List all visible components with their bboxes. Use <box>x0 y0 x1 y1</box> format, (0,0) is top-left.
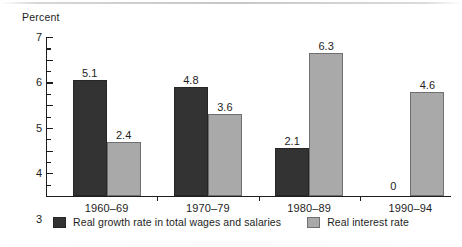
bar-value-label: 6.3 <box>318 41 333 52</box>
bar: 2.4 <box>107 142 141 197</box>
bar: 5.1 <box>73 80 107 196</box>
bar-value-label: 2.4 <box>116 130 131 141</box>
x-tick-label: 1970–79 <box>186 202 230 214</box>
y-tick-minor <box>47 139 51 140</box>
bar-value-label: 2.1 <box>284 136 299 147</box>
bar: 6.3 <box>309 53 343 196</box>
y-tick-major: 0 <box>47 196 53 197</box>
x-tick-label: 1960–69 <box>85 202 129 214</box>
bar-value-label: 4.6 <box>420 80 435 91</box>
bar-value-label: 3.6 <box>217 102 232 113</box>
y-tick-major: 6 <box>47 60 53 61</box>
y-tick-label: 4 <box>36 168 42 179</box>
y-tick-label: 7 <box>36 32 42 43</box>
legend-label-series-2: Real interest rate <box>327 216 409 228</box>
chart-legend: Real growth rate in total wages and sala… <box>0 216 462 228</box>
bar: 2.1 <box>275 148 309 196</box>
bar-value-label: 4.8 <box>183 75 198 86</box>
legend-item-series-1: Real growth rate in total wages and sala… <box>53 216 281 228</box>
y-tick-minor <box>47 185 51 186</box>
bar-value-label: 5.1 <box>82 68 97 79</box>
x-axis-line <box>46 196 451 197</box>
y-tick-label: 6 <box>36 77 42 88</box>
page-edge <box>0 241 462 247</box>
bar-chart-figure: Percent 01234567 5.12.44.83.62.16.304.6 … <box>0 0 462 247</box>
x-tick-separator <box>259 196 260 201</box>
x-tick-separator <box>157 196 158 201</box>
x-tick-label: 1990–94 <box>389 202 433 214</box>
y-tick-minor <box>47 117 51 118</box>
bar-value-label-zero: 0 <box>390 181 396 192</box>
bar: 4.6 <box>410 92 444 196</box>
y-tick-major: 7 <box>47 37 53 38</box>
y-tick-major: 1 <box>47 173 53 174</box>
y-tick-minor <box>47 71 51 72</box>
y-tick-minor <box>47 48 51 49</box>
scan-artifact-line <box>0 2 462 4</box>
y-tick-label: 5 <box>36 122 42 133</box>
x-tick-separator <box>360 196 361 201</box>
x-tick-label: 1980–89 <box>287 202 331 214</box>
legend-item-series-2: Real interest rate <box>307 216 409 228</box>
dark-swatch-icon <box>53 217 66 228</box>
y-tick-minor <box>47 162 51 163</box>
y-tick-major: 4 <box>47 105 53 106</box>
y-tick-minor <box>47 94 51 95</box>
y-tick-major: 3 <box>47 128 53 129</box>
legend-label-series-1: Real growth rate in total wages and sala… <box>73 216 281 228</box>
light-swatch-icon <box>307 217 320 228</box>
y-axis-title: Percent <box>22 11 60 23</box>
bar: 3.6 <box>208 114 242 196</box>
plot-area: 01234567 5.12.44.83.62.16.304.6 1960–691… <box>46 37 451 196</box>
y-tick-major: 5 <box>47 82 53 83</box>
y-tick-major: 2 <box>47 151 53 152</box>
bar: 4.8 <box>174 87 208 196</box>
